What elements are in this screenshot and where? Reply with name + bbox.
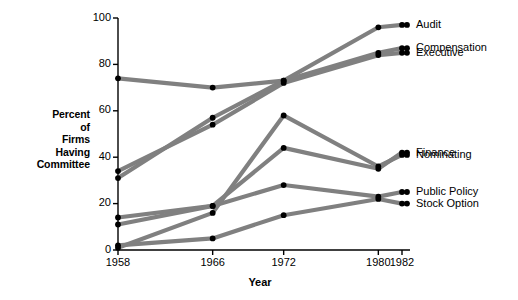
data-point-marker — [375, 24, 381, 30]
data-point-marker — [115, 242, 121, 248]
y-axis-title: PercentofFirmsHavingCommittee — [37, 108, 90, 171]
data-point-marker — [399, 22, 405, 28]
series-label-executive: Executive — [416, 46, 464, 59]
data-point-marker — [115, 175, 121, 181]
x-axis-title: Year — [94, 276, 426, 288]
data-point-marker — [375, 196, 381, 202]
data-point-marker — [404, 22, 410, 28]
data-point-marker — [210, 115, 216, 121]
data-point-marker — [281, 145, 287, 151]
data-point-marker — [281, 113, 287, 119]
y-tick-label: 60 — [99, 103, 111, 115]
line-chart: PercentofFirmsHavingCommittee 0204060801… — [0, 0, 518, 300]
y-axis-title-line: Firms — [37, 133, 90, 146]
series-label-stock-option: Stock Option — [416, 197, 479, 210]
y-tick-label: 20 — [99, 196, 111, 208]
data-point-marker — [399, 50, 405, 56]
data-point-marker — [115, 75, 121, 81]
data-point-marker — [210, 122, 216, 128]
data-point-marker — [210, 210, 216, 216]
series-line — [118, 199, 402, 245]
x-tick-label: 1966 — [189, 256, 237, 268]
x-tick-label: 1958 — [94, 256, 142, 268]
data-point-marker — [399, 150, 405, 156]
y-tick-label: 0 — [105, 243, 111, 255]
data-point-marker — [404, 201, 410, 207]
y-tick-label: 80 — [99, 57, 111, 69]
series-label-audit: Audit — [416, 18, 441, 31]
y-axis-title-line: of — [37, 121, 90, 134]
series-line — [118, 115, 402, 247]
y-tick-label: 100 — [93, 11, 111, 23]
data-point-marker — [281, 212, 287, 218]
data-point-marker — [210, 85, 216, 91]
data-point-marker — [375, 166, 381, 172]
data-point-marker — [281, 80, 287, 86]
data-point-marker — [210, 203, 216, 209]
y-axis-title-line: Committee — [37, 158, 90, 171]
data-point-marker — [210, 236, 216, 242]
data-point-marker — [399, 189, 405, 195]
x-tick-label: 1972 — [260, 256, 308, 268]
series-label-finance: Finance — [416, 146, 455, 159]
data-point-marker — [404, 50, 410, 56]
y-axis-title-line: Having — [37, 146, 90, 159]
data-point-marker — [281, 182, 287, 188]
data-point-marker — [375, 52, 381, 58]
data-point-marker — [115, 222, 121, 228]
data-point-marker — [115, 168, 121, 174]
x-tick-label: 1982 — [378, 256, 426, 268]
data-point-marker — [115, 215, 121, 221]
data-point-marker — [404, 189, 410, 195]
y-tick-label: 40 — [99, 150, 111, 162]
y-axis-title-line: Percent — [37, 108, 90, 121]
data-point-marker — [404, 150, 410, 156]
data-point-marker — [399, 201, 405, 207]
